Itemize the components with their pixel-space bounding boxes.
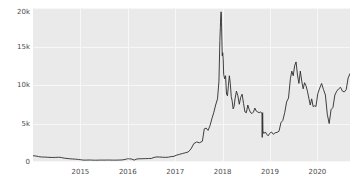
y-tick-label-0: 0 [0, 158, 30, 166]
x-tick-label-2019: 2019 [261, 168, 279, 176]
y-tick-label-10k: 10k [0, 81, 30, 89]
plot-panel [33, 8, 350, 162]
y-tick-label-5k: 5k [0, 120, 30, 128]
x-tick-label-2017: 2017 [166, 168, 184, 176]
x-tick-label-2015: 2015 [71, 168, 89, 176]
x-tick-label-2016: 2016 [119, 168, 137, 176]
y-tick-label-15k: 15k [0, 43, 30, 51]
y-tick-label-20k: 20k [0, 8, 30, 16]
x-tick-label-2018: 2018 [214, 168, 232, 176]
line-chart: 0 5k 10k 15k 20k 2015 2016 2017 2018 201… [0, 0, 358, 191]
series-line-price [33, 8, 350, 162]
x-tick-label-2020: 2020 [308, 168, 326, 176]
